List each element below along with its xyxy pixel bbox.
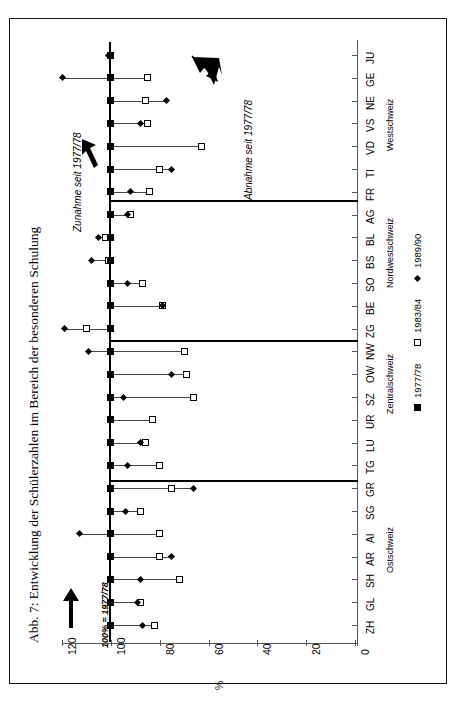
marker-1983-zg bbox=[83, 325, 90, 332]
marker-1989-vs bbox=[137, 120, 144, 127]
series-connector bbox=[111, 579, 179, 580]
region-label-ostschweiz: Ostschweiz bbox=[385, 527, 395, 573]
marker-1977-ge bbox=[107, 74, 114, 81]
marker-1977-ju bbox=[107, 52, 114, 59]
category-label-sh: SH bbox=[365, 574, 376, 588]
category-label-ge: GE bbox=[365, 72, 376, 86]
marker-1989-nw bbox=[85, 348, 92, 355]
marker-1983-ow bbox=[183, 371, 190, 378]
category-axis-tick bbox=[352, 420, 358, 421]
series-connector bbox=[89, 351, 184, 352]
marker-1983-sh bbox=[176, 576, 183, 583]
marker-1977-ai bbox=[107, 530, 114, 537]
series-connector bbox=[111, 465, 160, 466]
category-label-tg: TG bbox=[365, 461, 376, 475]
value-axis-tick bbox=[306, 640, 307, 646]
zunahme-pointer-arrow-icon bbox=[82, 135, 114, 169]
value-axis-tick bbox=[62, 640, 63, 646]
marker-1983-sg bbox=[137, 508, 144, 515]
category-label-ur: UR bbox=[365, 414, 376, 428]
marker-1989-sh bbox=[137, 576, 144, 583]
marker-1989-sg bbox=[122, 507, 129, 514]
marker-1977-ow bbox=[107, 371, 114, 378]
series-connector bbox=[111, 101, 167, 102]
increase-direction-arrow-icon bbox=[60, 588, 82, 628]
value-axis-tick-label: 80 bbox=[164, 643, 176, 655]
marker-1989-so bbox=[124, 279, 131, 286]
category-label-vs: VS bbox=[365, 119, 376, 132]
category-axis-tick bbox=[352, 55, 358, 56]
marker-1983-tg bbox=[156, 462, 163, 469]
marker-1989-tg bbox=[124, 462, 131, 469]
marker-1977-ag bbox=[107, 211, 114, 218]
value-axis-tick-label: 40 bbox=[261, 643, 273, 655]
category-axis-tick bbox=[352, 557, 358, 558]
marker-1983-vd bbox=[198, 143, 205, 150]
category-axis-tick bbox=[352, 579, 358, 580]
marker-1983-zh bbox=[151, 622, 158, 629]
category-axis-tick bbox=[352, 169, 358, 170]
marker-1983-ti bbox=[156, 166, 163, 173]
value-axis-tick-label: 0 bbox=[359, 649, 371, 655]
category-axis-tick bbox=[352, 534, 358, 535]
abnahme-pointer-arrow-shaft-icon bbox=[188, 52, 228, 92]
marker-1989-ow bbox=[168, 371, 175, 378]
category-axis-tick bbox=[352, 123, 358, 124]
annotation-abnahme: Abnahme seit 1977/78 bbox=[243, 100, 254, 200]
marker-1983-sz bbox=[190, 394, 197, 401]
marker-1989-ti bbox=[168, 165, 175, 172]
value-axis-tick bbox=[355, 640, 356, 646]
category-label-sg: SG bbox=[365, 506, 376, 520]
chart-plot-area: Zunahme seit 1977/78 Abnahme seit 1977/7… bbox=[0, 0, 470, 709]
marker-1977-lu bbox=[107, 439, 114, 446]
category-label-vd: VD bbox=[365, 141, 376, 155]
value-axis-tick-label: 60 bbox=[213, 643, 225, 655]
marker-1989-zh bbox=[139, 621, 146, 628]
baseline-note: 100% = 1977/78 bbox=[100, 582, 110, 648]
marker-1977-ar bbox=[107, 553, 114, 560]
marker-1977-nw bbox=[107, 348, 114, 355]
category-label-gl: GL bbox=[365, 598, 376, 611]
marker-1977-so bbox=[107, 280, 114, 287]
reference-line-100 bbox=[109, 42, 111, 642]
category-axis-tick bbox=[352, 101, 358, 102]
category-label-gr: GR bbox=[365, 482, 376, 497]
category-label-fr: FR bbox=[365, 187, 376, 200]
category-label-bl: BL bbox=[365, 234, 376, 246]
marker-1977-gl bbox=[107, 599, 114, 606]
category-label-bs: BS bbox=[365, 256, 376, 269]
marker-1989-bs bbox=[88, 257, 95, 264]
value-axis-tick bbox=[257, 640, 258, 646]
category-axis-line bbox=[357, 40, 358, 646]
series-connector bbox=[111, 625, 155, 626]
category-label-ju: JU bbox=[365, 52, 376, 64]
marker-1977-zg bbox=[107, 325, 114, 332]
category-label-ne: NE bbox=[365, 96, 376, 110]
value-axis-tick-label: 20 bbox=[310, 643, 322, 655]
value-axis-tick bbox=[209, 640, 210, 646]
series-connector bbox=[79, 534, 160, 535]
marker-1983-ai bbox=[156, 530, 163, 537]
series-connector bbox=[111, 306, 162, 307]
legend-marker-1983 bbox=[414, 339, 421, 346]
category-axis-tick bbox=[352, 237, 358, 238]
marker-1977-gr bbox=[107, 485, 114, 492]
marker-1983-fr bbox=[146, 188, 153, 195]
category-axis-tick bbox=[352, 602, 358, 603]
category-axis-tick bbox=[352, 215, 358, 216]
category-axis-tick bbox=[352, 625, 358, 626]
marker-1983-nw bbox=[181, 348, 188, 355]
series-connector bbox=[111, 488, 194, 489]
category-axis-tick bbox=[352, 260, 358, 261]
marker-1989-zg bbox=[61, 325, 68, 332]
marker-1989-ne bbox=[163, 97, 170, 104]
region-separator-zentral-nordwest bbox=[110, 340, 358, 342]
figure-page: Abb. 7: Entwicklung der Schülerzahlen im… bbox=[0, 0, 470, 709]
category-label-zh: ZH bbox=[365, 621, 376, 634]
category-axis-tick bbox=[352, 511, 358, 512]
category-axis-tick bbox=[352, 397, 358, 398]
category-axis-tick bbox=[352, 465, 358, 466]
marker-1983-ur bbox=[149, 416, 156, 423]
marker-1977-vs bbox=[107, 120, 114, 127]
marker-1983-ge bbox=[144, 74, 151, 81]
